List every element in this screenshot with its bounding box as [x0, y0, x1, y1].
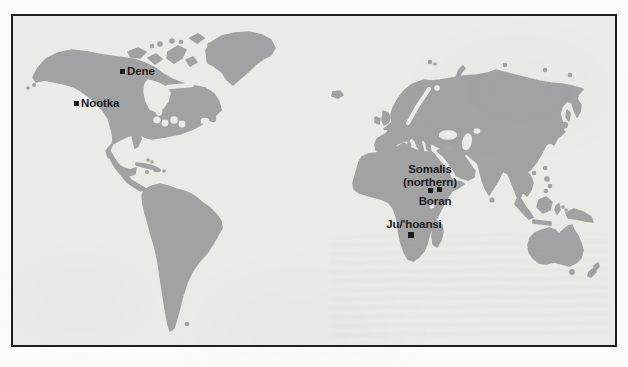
caribbean-islands	[136, 159, 165, 173]
juhoansi-label: Ju/'hoansi	[386, 218, 441, 231]
nootka-marker	[74, 101, 79, 106]
dene-marker	[120, 69, 125, 74]
southeast-asia-islands	[515, 197, 593, 225]
nootka-label: Nootka	[81, 97, 119, 110]
boran-label: Boran	[419, 195, 452, 208]
somalis-label-line2: (northern)	[403, 176, 457, 189]
world-map	[0, 0, 628, 367]
south-america	[142, 184, 222, 331]
somalis-label: Somalis (northern)	[403, 163, 457, 188]
juhoansi-marker	[408, 232, 414, 238]
newfoundland	[211, 117, 216, 122]
somalis-label-line1: Somalis	[403, 163, 457, 176]
somalis-marker	[428, 188, 433, 193]
scanned-page: Dene Nootka Somalis (northern) Boran Ju/…	[0, 0, 628, 367]
australia-new-zealand	[528, 225, 599, 277]
dene-label: Dene	[127, 65, 155, 78]
